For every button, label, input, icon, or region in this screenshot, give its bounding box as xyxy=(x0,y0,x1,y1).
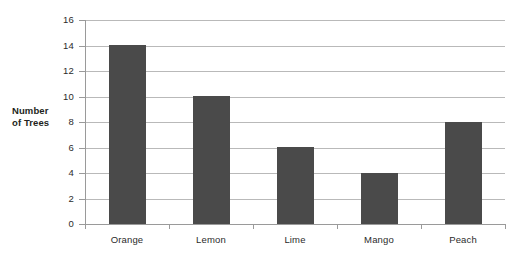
y-axis-line xyxy=(85,20,86,225)
x-tick-label: Lime xyxy=(253,234,337,246)
y-tick-mark xyxy=(79,122,85,123)
y-tick-mark xyxy=(79,199,85,200)
y-tick-label: 12 xyxy=(52,66,74,76)
y-tick-mark xyxy=(79,46,85,47)
y-tick-mark xyxy=(79,20,85,21)
y-tick-label: 0 xyxy=(52,219,74,229)
plot-area xyxy=(85,20,505,224)
gridline xyxy=(85,122,505,123)
bar[interactable] xyxy=(109,45,146,224)
x-tick-mark xyxy=(337,224,338,229)
y-axis-title-line-1: Number xyxy=(12,105,76,117)
x-tick-label: Orange xyxy=(85,234,169,246)
bar[interactable] xyxy=(445,122,482,224)
gridline xyxy=(85,71,505,72)
y-tick-label: 4 xyxy=(52,168,74,178)
y-tick-label: 8 xyxy=(52,117,74,127)
bar-chart: Number of Trees 1614121086420 OrangeLemo… xyxy=(0,0,520,266)
gridline xyxy=(85,97,505,98)
y-tick-mark xyxy=(79,148,85,149)
y-tick-mark xyxy=(79,97,85,98)
x-tick-mark xyxy=(253,224,254,229)
bar[interactable] xyxy=(277,147,314,224)
y-tick-label: 16 xyxy=(52,15,74,25)
y-tick-label: 6 xyxy=(52,143,74,153)
y-tick-label: 14 xyxy=(52,41,74,51)
bar[interactable] xyxy=(361,173,398,224)
x-tick-label: Mango xyxy=(337,234,421,246)
x-tick-mark xyxy=(169,224,170,229)
x-tick-mark xyxy=(505,224,506,229)
x-tick-mark xyxy=(85,224,86,229)
gridline xyxy=(85,20,505,21)
x-tick-label: Peach xyxy=(421,234,505,246)
bar[interactable] xyxy=(193,96,230,224)
gridline xyxy=(85,46,505,47)
x-axis-line xyxy=(85,224,505,225)
x-tick-label: Lemon xyxy=(169,234,253,246)
y-tick-label: 10 xyxy=(52,92,74,102)
x-tick-mark xyxy=(421,224,422,229)
y-tick-label: 2 xyxy=(52,194,74,204)
y-tick-mark xyxy=(79,173,85,174)
y-tick-mark xyxy=(79,71,85,72)
